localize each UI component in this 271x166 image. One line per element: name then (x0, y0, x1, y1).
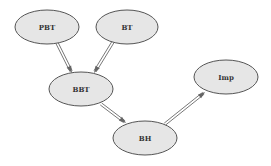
edge-bbt-to-bh (100, 103, 126, 123)
edge-pbt-to-bbt (56, 42, 72, 73)
edge-line (94, 41, 112, 70)
edge-bt-to-bbt (94, 41, 114, 73)
edge-line (164, 92, 202, 123)
node-pbt: PBT (15, 10, 79, 44)
node-bbt: BBT (49, 72, 113, 106)
graph-svg: PBTBTBBTBHImp (0, 0, 271, 166)
node-bt: BT (96, 10, 158, 44)
node-bh: BH (113, 121, 177, 155)
edge-bh-to-imp (164, 92, 205, 125)
nodes-layer: PBTBTBBTBHImp (15, 10, 258, 155)
node-imp: Imp (194, 60, 258, 94)
diagram-canvas: PBTBTBBTBHImp (0, 0, 271, 166)
edge-line (96, 43, 114, 72)
node-label: BBT (72, 85, 90, 94)
edge-line (166, 94, 204, 125)
node-label: Imp (218, 73, 234, 82)
node-label: BT (121, 23, 133, 32)
node-label: PBT (39, 23, 56, 32)
node-label: BH (139, 134, 152, 143)
